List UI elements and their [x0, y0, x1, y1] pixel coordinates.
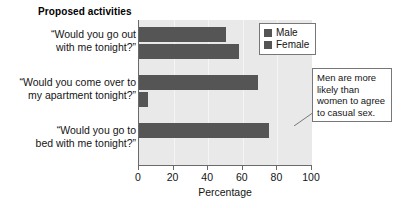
legend-label-male: Male: [276, 27, 298, 39]
bar-male-0: [139, 27, 226, 42]
tick-100: [311, 165, 312, 170]
legend-item-female: Female: [264, 39, 309, 51]
tick-60: [242, 165, 243, 170]
x-axis-line: [138, 165, 312, 166]
gridline-60: [243, 20, 244, 165]
tick-label-40: 40: [192, 171, 222, 183]
tick-label-100: 100: [296, 171, 326, 183]
bar-male-2: [139, 123, 269, 138]
category-label-1: “Would you come over to my apartment ton…: [19, 76, 136, 101]
tick-label-20: 20: [158, 171, 188, 183]
tick-label-0: 0: [123, 171, 153, 183]
category-label-0-line-1: with me tonight?”: [51, 41, 136, 54]
tick-20: [173, 165, 174, 170]
legend-swatch-male-icon: [264, 29, 272, 37]
callout-line-2: women to agree: [317, 95, 387, 107]
tick-40: [207, 165, 208, 170]
tick-80: [276, 165, 277, 170]
bar-female-1: [139, 92, 148, 107]
tick-label-80: 80: [261, 171, 291, 183]
bar-female-0: [139, 44, 239, 59]
legend-item-male: Male: [264, 27, 309, 39]
category-label-2-line-1: bed with me tonight?”: [36, 137, 136, 150]
bar-male-1: [139, 75, 258, 90]
category-label-0: “Would you go out with me tonight?”: [51, 28, 136, 53]
category-label-2: “Would you go to bed with me tonight?”: [36, 124, 136, 149]
category-label-2-line-0: “Would you go to: [36, 124, 136, 137]
callout-annotation: Men are more likely than women to agree …: [312, 68, 392, 122]
callout-line-1: likely than: [317, 84, 387, 96]
tick-label-60: 60: [227, 171, 257, 183]
category-label-0-line-0: “Would you go out: [51, 28, 136, 41]
legend-swatch-female-icon: [264, 41, 272, 49]
callout-line-3: to casual sex.: [317, 107, 387, 119]
category-label-1-line-1: my apartment tonight?”: [19, 89, 136, 102]
bar-chart: Proposed activities 0 20 40 60 80 100 Pe…: [0, 0, 402, 208]
legend: Male Female: [259, 23, 316, 55]
tick-0: [138, 165, 139, 170]
legend-label-female: Female: [276, 39, 309, 51]
category-label-1-line-0: “Would you come over to: [19, 76, 136, 89]
callout-line-0: Men are more: [317, 72, 387, 84]
x-axis-title: Percentage: [138, 186, 312, 198]
chart-title: Proposed activities: [38, 6, 132, 17]
